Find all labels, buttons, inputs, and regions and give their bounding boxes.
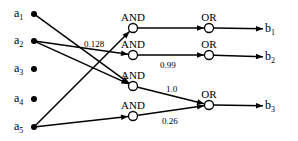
and3-gate — [129, 82, 138, 91]
input-label-a2: a2 — [14, 33, 23, 49]
and1-label: AND — [121, 11, 145, 23]
weight-label: 1.0 — [166, 84, 178, 94]
input-node-a5 — [31, 124, 37, 130]
or1-label: OR — [201, 11, 217, 23]
input-label-a5: a5 — [14, 119, 23, 135]
input-label-a3: a3 — [14, 61, 23, 77]
output-label-b2: b2 — [265, 49, 275, 65]
input-node-a2 — [31, 38, 37, 44]
input-label-a4: a4 — [14, 91, 23, 107]
and4-label: AND — [121, 99, 145, 111]
edge-and4-or3 — [138, 106, 204, 116]
weight-label: 0.128 — [84, 39, 105, 49]
and2-label: AND — [121, 38, 145, 50]
input-node-a3 — [31, 66, 37, 72]
weight-label: 0.99 — [160, 60, 176, 70]
output-label-b1: b1 — [265, 21, 275, 37]
input-node-a4 — [31, 96, 37, 102]
or3-gate — [205, 101, 214, 110]
labels: a1a2a3a4a5ANDANDANDANDORORORb1b2b30.1280… — [14, 6, 275, 135]
edge-or1-b1 — [214, 28, 263, 29]
input-node-a1 — [31, 11, 37, 17]
edge-a5-and4 — [36, 117, 128, 127]
and2-gate — [129, 51, 138, 60]
edge-or2-b2 — [214, 55, 263, 56]
or2-gate — [205, 51, 214, 60]
weight-label: 0.26 — [162, 116, 178, 126]
edge-a1-and3 — [36, 15, 129, 83]
and3-label: AND — [121, 69, 145, 81]
and4-gate — [129, 112, 138, 121]
or2-label: OR — [201, 38, 217, 50]
edges — [35, 15, 263, 127]
or3-label: OR — [201, 88, 217, 100]
output-label-b3: b3 — [265, 98, 275, 114]
and1-gate — [129, 24, 138, 33]
or1-gate — [205, 24, 214, 33]
input-label-a1: a1 — [14, 6, 23, 22]
network-diagram: a1a2a3a4a5ANDANDANDANDORORORb1b2b30.1280… — [0, 0, 298, 141]
edge-or3-b3 — [214, 105, 263, 106]
